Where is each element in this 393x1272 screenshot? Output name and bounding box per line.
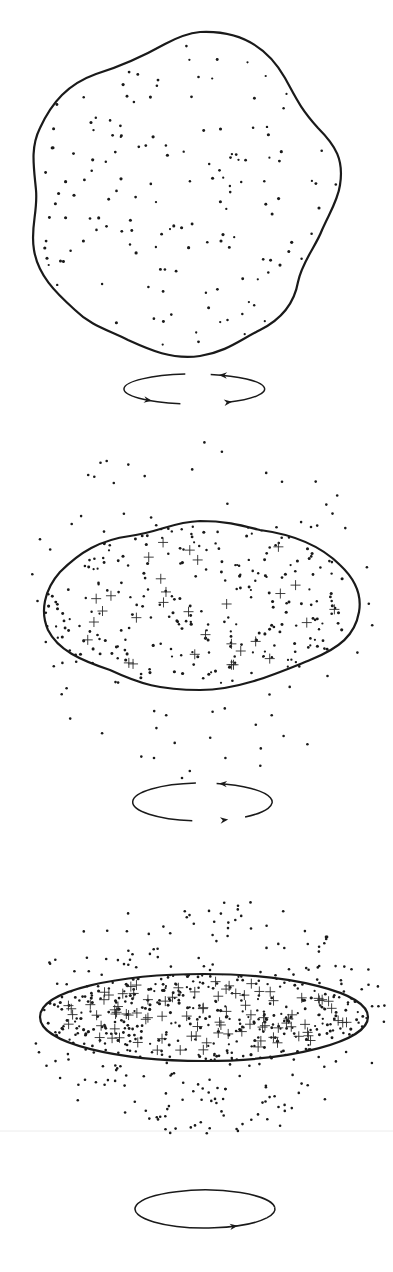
halo-dots <box>31 441 374 779</box>
cloud-outline <box>33 32 341 357</box>
collapse-diagram <box>0 0 393 1272</box>
rotation-arrow-icon <box>135 1190 275 1230</box>
rotation-arrow-icon <box>124 372 265 406</box>
stage-3-disk <box>35 901 386 1230</box>
stage-1-cloud <box>33 31 341 406</box>
stage-2-cloud <box>31 441 374 824</box>
cloud-outline <box>44 521 360 690</box>
star-cross-icons <box>63 977 351 1055</box>
disk-outline <box>40 974 368 1061</box>
rotation-arrow-icon <box>133 781 272 824</box>
